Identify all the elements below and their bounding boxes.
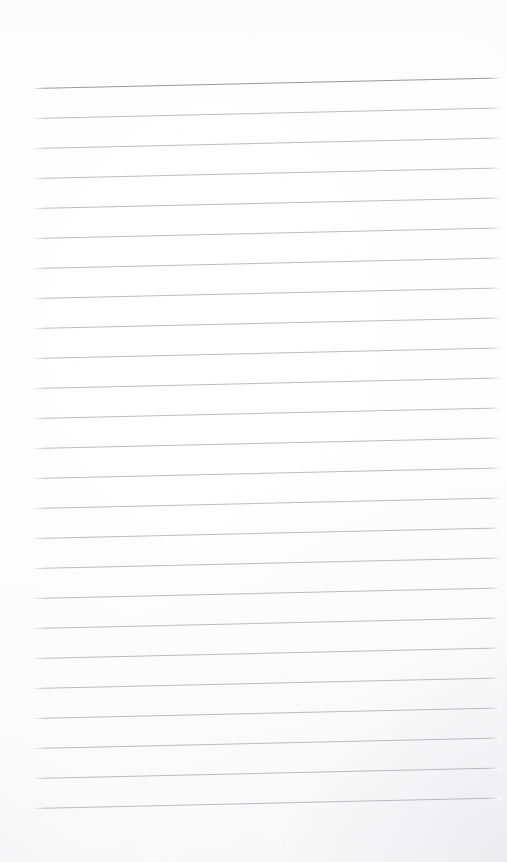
scanned-page xyxy=(0,0,507,862)
writing-area xyxy=(33,88,501,808)
